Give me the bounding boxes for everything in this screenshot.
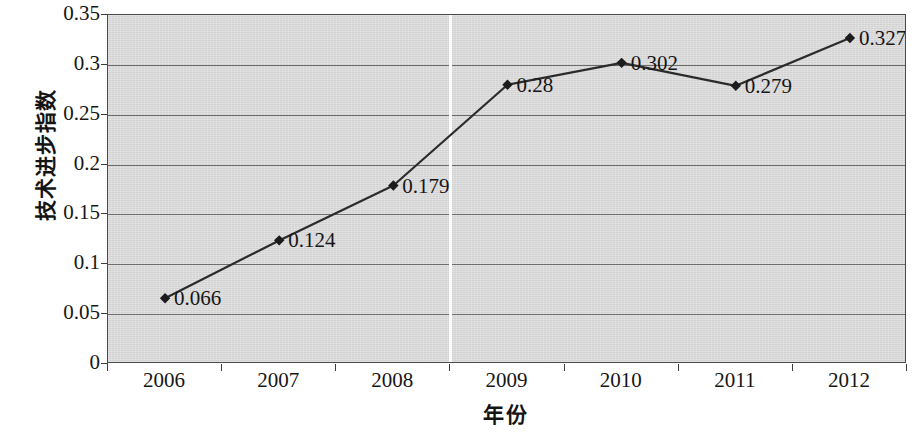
y-axis-tick-label: 0.05 [8, 302, 100, 323]
data-point-marker [160, 293, 170, 303]
x-axis-tick-label: 2010 [561, 370, 681, 391]
data-point-marker [731, 81, 741, 91]
data-point-label: 0.279 [745, 76, 792, 97]
y-axis-tick-label: 0.2 [8, 153, 100, 174]
x-axis-tick-label: 2007 [218, 370, 338, 391]
x-axis-tick-label: 2008 [332, 370, 452, 391]
y-axis-tick-labels: 00.050.10.150.20.250.30.35 [8, 0, 100, 432]
series-line [108, 15, 906, 363]
x-axis-tick-label: 2006 [104, 370, 224, 391]
y-axis-tick-label: 0.1 [8, 252, 100, 273]
y-axis-tick-label: 0.35 [8, 3, 100, 24]
x-axis-tick-label: 2009 [447, 370, 567, 391]
x-axis-tick-label: 2011 [675, 370, 795, 391]
x-axis-tick-label: 2012 [789, 370, 909, 391]
data-point-label: 0.179 [402, 176, 449, 197]
data-point-label: 0.327 [859, 28, 906, 49]
data-point-label: 0.28 [517, 75, 554, 96]
y-axis-tick-label: 0.25 [8, 103, 100, 124]
data-point-marker [274, 235, 284, 245]
x-axis-title: 年份 [0, 398, 921, 428]
plot-area: 0.0660.1240.1790.280.3020.2790.327 [107, 14, 906, 363]
line-chart: 技术进步指数 00.050.10.150.20.250.30.35 0.0660… [0, 0, 921, 432]
data-point-marker [616, 58, 626, 68]
y-axis-tick-label: 0.15 [8, 202, 100, 223]
data-point-marker [845, 33, 855, 43]
y-axis-tick-label: 0 [8, 352, 100, 373]
data-point-label: 0.066 [174, 288, 221, 309]
data-point-label: 0.124 [288, 230, 335, 251]
data-point-label: 0.302 [631, 53, 678, 74]
y-axis-tick-label: 0.3 [8, 53, 100, 74]
